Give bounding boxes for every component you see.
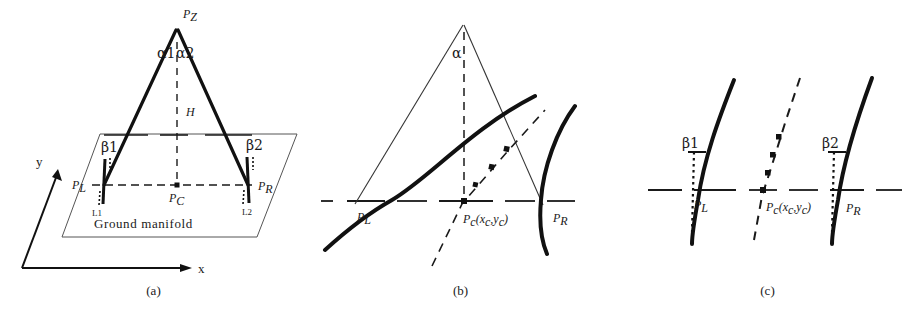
label-beta2: β2 xyxy=(246,137,263,153)
curve-left-c xyxy=(692,80,734,244)
point-pc-marker xyxy=(175,183,180,188)
label-beta1: β1 xyxy=(101,139,118,155)
label-pr: PR xyxy=(257,179,273,196)
axis-x-arrowhead xyxy=(180,264,192,272)
label-ground-manifold: Ground manifold xyxy=(94,216,193,231)
panel-c: β1 β2 PL Pc(xc,yc) PR (c) xyxy=(614,0,921,318)
label-beta2-c: β2 xyxy=(822,135,839,151)
label-beta1-c: β1 xyxy=(682,135,699,151)
caption-panel-c: (c) xyxy=(614,283,921,299)
label-pc-c: Pc(xc,yc) xyxy=(765,200,811,217)
point-pc-marker-b xyxy=(461,198,467,204)
panel-a: PZ α1 α2 H β1 β2 PL PR PC L1 L2 Ground m… xyxy=(0,0,307,318)
label-axis-x: x xyxy=(198,261,205,276)
diagonal-marker-2 xyxy=(488,164,495,171)
label-alpha1: α1 xyxy=(157,45,175,61)
center-marker-3 xyxy=(765,170,771,176)
label-axis-y: y xyxy=(36,154,43,169)
epipolar-diagonal-dashed xyxy=(432,110,545,266)
curve-right-thick xyxy=(540,106,575,254)
figure-root: PZ α1 α2 H β1 β2 PL PR PC L1 L2 Ground m… xyxy=(0,0,921,318)
panel-b: α PL Pc(xc,yc) PR (b) xyxy=(307,0,614,318)
caption-panel-b: (b) xyxy=(307,283,614,299)
segment-l2 xyxy=(247,157,249,203)
curve-right-c xyxy=(832,78,872,244)
diagonal-marker-1 xyxy=(472,182,478,188)
label-l2: L2 xyxy=(242,207,252,217)
l2-dot-lower xyxy=(243,190,244,204)
label-alpha2: α2 xyxy=(176,45,194,61)
label-pc: PC xyxy=(168,191,185,208)
label-pc-b: Pc(xc,yc) xyxy=(462,212,508,229)
label-apex-pz: PZ xyxy=(182,7,197,24)
label-pr-c: PR xyxy=(845,201,861,218)
label-pr-b: PR xyxy=(552,211,568,228)
axis-y-shaft xyxy=(22,175,57,268)
label-height-h: H xyxy=(185,105,196,119)
triangle-left-ray xyxy=(355,25,463,204)
caption-panel-a: (a) xyxy=(0,283,307,299)
label-alpha-b: α xyxy=(452,45,462,61)
segment-l1 xyxy=(103,159,105,204)
diagonal-marker-3 xyxy=(503,146,510,153)
label-pl: PL xyxy=(71,178,86,195)
l1-dot-lower xyxy=(99,191,100,205)
center-marker-1 xyxy=(776,134,782,140)
point-pc-marker-c xyxy=(760,187,766,193)
axis-y-arrowhead xyxy=(52,169,62,181)
center-marker-2 xyxy=(770,152,776,158)
